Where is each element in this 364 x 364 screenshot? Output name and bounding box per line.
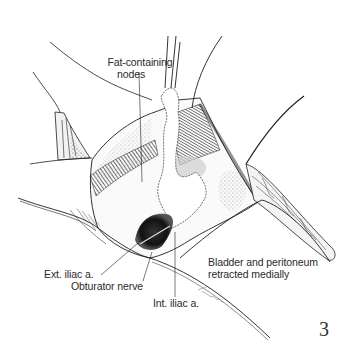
label-fat-line2: nodes (70, 68, 192, 80)
surgical-illustration (0, 0, 364, 364)
label-obturator-nerve: Obturator nerve (71, 280, 143, 292)
label-fat-line1: Fat-containing (88, 56, 192, 68)
right-retractor-curve (192, 36, 222, 108)
label-bladder-line2: retracted medially (208, 268, 318, 280)
label-bladder-peritoneum: Bladder and peritoneum retracted mediall… (208, 256, 318, 280)
label-int-iliac: Int. iliac a. (153, 297, 199, 309)
label-fat-containing-nodes: Fat-containing nodes (88, 56, 192, 80)
label-ext-iliac: Ext. iliac a. (44, 268, 93, 280)
left-wound-edge (33, 72, 60, 112)
label-bladder-line1: Bladder and peritoneum (208, 256, 318, 268)
leader-ext-iliac (101, 243, 138, 275)
figure-number: 3 (319, 318, 329, 341)
